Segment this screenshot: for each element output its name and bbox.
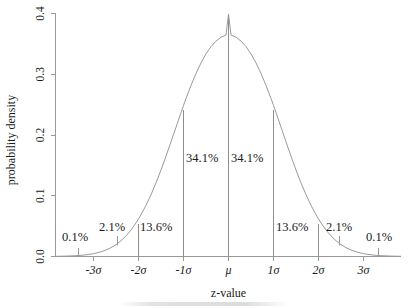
chart-canvas: 0.0 0.1 0.2 0.3 0.4 probability density … [0, 0, 409, 308]
percentage-labels: 0.1% 2.1% 13.6% 34.1% 34.1% 13.6% 2.1% 0… [62, 151, 392, 244]
pct-label-5: 13.6% [276, 220, 308, 234]
x-tick-label-6: 3σ [357, 263, 371, 277]
y-tick-label-4: 0.4 [34, 6, 46, 21]
pct-label-0: 0.1% [62, 230, 88, 244]
y-tick-labels: 0.0 0.1 0.2 0.3 0.4 [34, 6, 46, 264]
x-axis-title: z-value [211, 286, 246, 300]
normal-distribution-chart: 0.0 0.1 0.2 0.3 0.4 probability density … [0, 0, 409, 308]
pct-label-2: 13.6% [140, 220, 172, 234]
x-tick-label-3: μ [224, 263, 231, 277]
x-tick-label-1: -2σ [131, 263, 148, 277]
y-tick-label-2: 0.2 [34, 128, 46, 143]
pct-label-3: 34.1% [186, 151, 218, 165]
x-tick-label-0: -3σ [86, 263, 103, 277]
x-tick-labels: -3σ -2σ -1σ μ 1σ 2σ 3σ [86, 263, 371, 277]
pct-label-4: 34.1% [231, 151, 263, 165]
y-tick-marks [51, 14, 56, 257]
y-tick-label-1: 0.1 [34, 188, 46, 203]
y-tick-label-3: 0.3 [34, 67, 46, 82]
y-tick-label-0: 0.0 [34, 249, 46, 264]
x-tick-label-5: 2σ [313, 263, 326, 277]
page-edge-artifact [118, 302, 288, 306]
x-tick-label-4: 1σ [268, 263, 281, 277]
pct-label-1: 2.1% [99, 220, 125, 234]
pct-label-6: 2.1% [326, 220, 352, 234]
x-tick-label-2: -1σ [176, 263, 193, 277]
y-axis-title: probability density [4, 95, 18, 185]
x-tick-marks [94, 257, 364, 262]
pct-label-7: 0.1% [366, 230, 392, 244]
